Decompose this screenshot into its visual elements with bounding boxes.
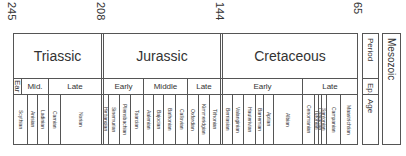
age-label: Toarcian	[134, 110, 140, 129]
legend-age: Age	[366, 99, 375, 113]
age-label: Sinemurian	[111, 107, 117, 132]
epoch-cell: Late	[302, 78, 358, 95]
epoch-label: Late	[196, 82, 212, 91]
age-label: Oxfordian	[190, 109, 196, 131]
age-label: Carnian	[52, 111, 58, 129]
age-label: Valanginian	[235, 107, 241, 133]
period-cell: Triassic	[13, 33, 102, 79]
age-label: Kimmeridgian	[201, 104, 207, 135]
boundary-age-label: 144	[214, 2, 226, 20]
epoch-label: Mid.	[27, 82, 42, 91]
age-cell: Maastrichtian	[340, 94, 358, 145]
boundary-age-label: 65	[352, 2, 364, 14]
age-cell: Norian	[60, 94, 102, 145]
era-cell: Mesozoic	[382, 33, 401, 145]
epoch-cell: Middle	[143, 78, 188, 95]
age-label: Campanian	[331, 107, 337, 133]
age-label: Callovian	[179, 109, 185, 130]
age-label: Hauterivian	[247, 107, 253, 132]
period-label: Jurassic	[136, 48, 187, 64]
age-label: Albian	[285, 113, 291, 127]
age-label: Ladinian	[40, 110, 46, 129]
epoch-label: Late	[322, 82, 338, 91]
age-cell: Toarcian	[130, 94, 144, 145]
epoch-cell: Late	[48, 78, 102, 95]
age-label: Maastrichtian	[346, 105, 352, 135]
era-label: Mesozoic	[386, 38, 397, 80]
period-cell: Jurassic	[101, 33, 221, 79]
period-cell: Cretaceous	[220, 33, 358, 79]
epoch-cell: Early	[101, 78, 144, 95]
epoch-label: Middle	[154, 82, 178, 91]
period-label: Cretaceous	[254, 48, 326, 64]
age-label: Aalenian	[146, 110, 152, 129]
epoch-label: Late	[67, 82, 83, 91]
legend-age-cell: Age	[362, 94, 379, 145]
age-label: Berriasian	[225, 108, 231, 131]
age-label: Scythian	[18, 110, 24, 129]
age-label: Tithonian	[212, 109, 218, 129]
epoch-cell: Late	[187, 78, 221, 95]
age-label: Anisian	[30, 111, 36, 127]
epoch-label: Early	[253, 82, 271, 91]
age-label: Barremian	[257, 108, 263, 131]
legend-epoch-cell: Ep.	[362, 78, 379, 95]
age-label: Bathonian	[167, 108, 173, 131]
age-label: Aptian	[266, 112, 272, 126]
age-label: Bajocian	[156, 110, 162, 129]
legend-period: Period	[366, 38, 375, 61]
age-label: Norian	[78, 112, 84, 127]
age-label: Cenomanian	[306, 105, 312, 133]
boundary-age-label: 208	[95, 2, 107, 20]
age-cell: Campanian	[326, 94, 341, 145]
legend-period-cell: Period	[362, 33, 379, 79]
epoch-cell: Early	[220, 78, 303, 95]
period-label: Triassic	[34, 48, 82, 64]
boundary-age-label: 245	[6, 2, 18, 20]
epoch-cell: Mid.	[21, 78, 49, 95]
age-label: Pliensbachian	[122, 104, 128, 135]
age-cell: Scythian	[13, 94, 28, 145]
age-cell: Albian	[273, 94, 303, 145]
epoch-label: Early	[114, 82, 132, 91]
